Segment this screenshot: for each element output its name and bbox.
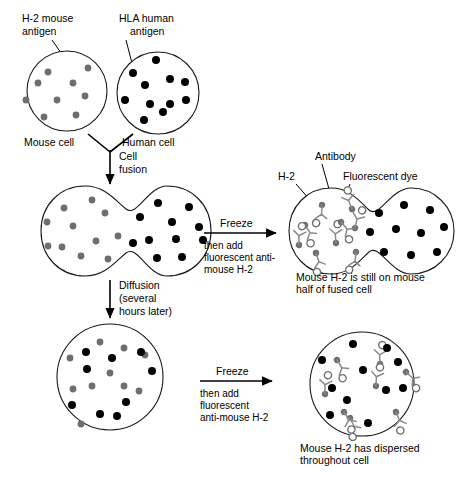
cell-fusion-figure: H-2 mouse antigen HLA human antigen Mous… [0, 0, 463, 488]
hla-human-antigen-label-line1: HLA human [119, 12, 174, 24]
mouse-cell [23, 51, 107, 131]
freeze-bottom-sub-line1: then add [200, 388, 239, 399]
freeze-top-sub-line1: then add [204, 240, 243, 251]
diffusion-label-line1: Diffusion [119, 279, 160, 291]
diffused-cell-stained [310, 332, 426, 441]
hla-human-antigen-label-line2: antigen [130, 25, 165, 37]
human-cell-label: Human cell [122, 136, 175, 148]
fused-cell-stained [289, 186, 454, 276]
human-cell-membrane [117, 52, 199, 134]
freeze-bottom-sub-line3: anti-mouse H-2 [200, 412, 269, 423]
freeze-bottom-label: Freeze [216, 365, 249, 377]
freeze-top-sub-line2: fluorescent anti- [204, 252, 275, 263]
freeze-bottom-sub-line2: fluorescent [200, 400, 249, 411]
freeze-top-label: Freeze [220, 217, 253, 229]
fused-cell-membrane [41, 186, 211, 276]
mouse-cell-membrane [27, 51, 107, 131]
h2-label: H-2 [278, 170, 295, 182]
diagram-canvas: H-2 mouse antigen HLA human antigen Mous… [0, 0, 463, 488]
caption-bottom-line2: throughout cell [300, 454, 369, 466]
cell-fusion-label-line1: Cell [119, 150, 137, 162]
caption-top-line2: half of fused cell [296, 283, 372, 295]
fluorescent-dye-label: Fluorescent dye [343, 170, 418, 182]
fusion-join-left [88, 134, 110, 152]
antibody-label: Antibody [315, 150, 357, 162]
mouse-cell-label: Mouse cell [24, 136, 74, 148]
caption-bottom-line1: Mouse H-2 has dispersed [300, 442, 420, 454]
diffused-cell [57, 324, 163, 430]
diffusion-label-line3: hours later) [119, 305, 172, 317]
human-cell [117, 52, 199, 134]
h2-mouse-antigen-label-line1: H-2 mouse [22, 12, 74, 24]
diffused-cell-membrane [57, 324, 163, 430]
caption-top-line1: Mouse H-2 is still on mouse [296, 271, 425, 283]
h2-mouse-antigen-label-line2: antigen [22, 25, 57, 37]
fused-cell-before-diffusion [41, 186, 211, 276]
diffusion-label-line2: (several [119, 292, 156, 304]
freeze-top-sub-line3: mouse H-2 [204, 264, 253, 275]
cell-fusion-label-line2: fusion [119, 163, 147, 175]
